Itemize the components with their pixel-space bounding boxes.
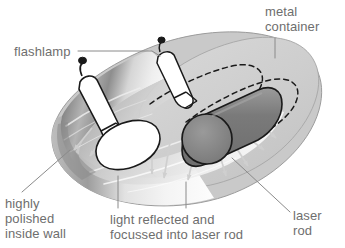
leader-highly-polished [22, 150, 70, 192]
flashlamp-rear-tip [158, 37, 165, 43]
label-light-reflected: light reflected and focussed into laser … [110, 212, 243, 242]
label-laser-rod: laser rod [293, 208, 322, 238]
label-metal-container: metal container [265, 4, 319, 34]
laser-rod-end-cap [182, 114, 232, 164]
flashlamp-front-tip [79, 57, 87, 64]
label-flashlamp: flashlamp [14, 44, 71, 59]
laser-cavity-diagram: metal container flashlamp highly polishe… [0, 0, 345, 248]
label-highly-polished-inside-wall: highly polished inside wall [5, 196, 66, 241]
